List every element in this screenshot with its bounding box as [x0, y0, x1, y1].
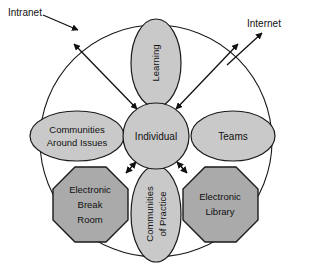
connector-individual-to-electronic-break-room	[126, 162, 136, 173]
node-electronic-break-room-label-line1: Electronic	[69, 184, 111, 195]
node-electronic-library-label-line2: Library	[205, 206, 234, 217]
node-electronic-library[interactable]	[183, 167, 258, 242]
node-electronic-break-room-label-line2: Break	[78, 199, 103, 210]
label-internet: Internet	[247, 18, 281, 29]
node-communities-of-practice-label-line2: of Practice	[157, 192, 168, 237]
node-communities-around-issues-label-line2: Around Issues	[47, 137, 108, 148]
diagram-root: Learning Communities Around Issues Teams…	[0, 0, 311, 272]
node-learning-label: Learning	[150, 45, 161, 82]
node-teams-label: Teams	[218, 131, 247, 142]
label-intranet: Intranet	[8, 7, 42, 18]
connector-individual-to-electronic-library	[177, 162, 187, 173]
node-electronic-break-room-label-line3: Room	[77, 214, 102, 225]
network-diagram: Learning Communities Around Issues Teams…	[0, 0, 311, 272]
intranet-arrow	[43, 15, 78, 30]
node-communities-around-issues-label-line1: Communities	[49, 124, 105, 135]
internet-arrow	[227, 33, 262, 65]
node-communities-of-practice-label-line1: Communities	[144, 186, 155, 242]
node-electronic-library-label-line1: Electronic	[199, 191, 241, 202]
connector-boundary-upperleft-to-individual	[74, 44, 137, 109]
connector-boundary-upperright-to-individual	[176, 44, 238, 109]
node-individual-label: Individual	[135, 131, 177, 142]
